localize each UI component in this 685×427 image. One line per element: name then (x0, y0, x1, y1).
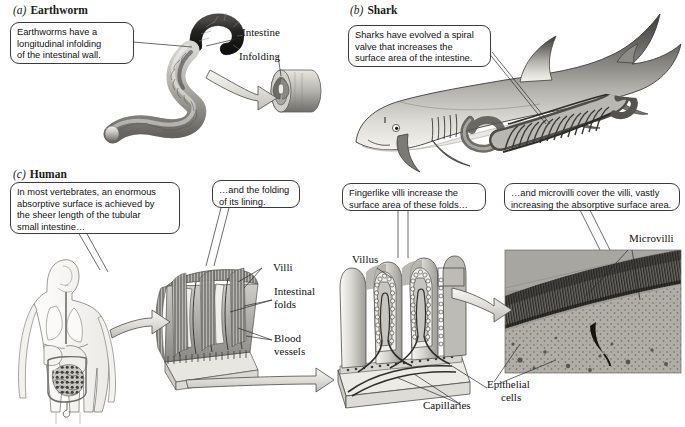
label-microvilli: Microvilli (629, 232, 674, 245)
label-blood-vessels: Blood vessels (274, 332, 305, 357)
callout-villi-line1: Fingerlike villi increase the (349, 188, 479, 200)
figure-canvas: (a)Earthworm (b)Shark (c)Human Earthworm… (0, 0, 685, 427)
callout-villi-line2: surface area of these folds… (349, 200, 479, 212)
label-capillaries: Capillaries (423, 399, 471, 412)
label-blood-vessels-line1: Blood (274, 332, 301, 344)
callout-earthworm-line3: of the intestinal wall. (17, 50, 127, 62)
panel-letter-a: (a) (13, 4, 26, 16)
callout-villi: Fingerlike villi increase the surface ar… (342, 183, 486, 211)
earthworm-cross-section (271, 70, 321, 112)
label-epithelial-cells: Epithelial cells (487, 378, 530, 403)
callout-shark-line2: valve that increases the (355, 42, 484, 54)
callout-human-intro: In most vertebrates, an enormous absorpt… (10, 182, 180, 234)
callout-microvilli-line2: increasing the absorptive surface area. (511, 200, 673, 212)
panel-heading-earthworm: (a)Earthworm (13, 4, 88, 16)
villus-block-illustration (338, 256, 470, 408)
callout-folding-line1: …and the folding (219, 185, 293, 197)
callout-shark: Sharks have evolved a spiral valve that … (348, 25, 491, 67)
callout-earthworm: Earthworms have a longitudinal infolding… (10, 22, 134, 64)
panel-name-earthworm: Earthworm (30, 4, 88, 16)
callout-shark-line3: surface area of the intestine. (355, 53, 484, 65)
callout-shark-line1: Sharks have evolved a spiral (355, 30, 484, 42)
callout-earthworm-line1: Earthworms have a (17, 27, 127, 39)
callout-microvilli: …and microvilli cover the villi, vastly … (504, 183, 680, 211)
callout-folding: …and the folding of its lining. (212, 180, 300, 208)
label-villi: Villi (273, 261, 293, 274)
callout-human-intro-line4: small intestine… (17, 222, 173, 234)
label-intestinal-folds-line2: folds (274, 298, 296, 310)
callout-folding-line2: of its lining. (219, 197, 293, 209)
panel-heading-shark: (b)Shark (350, 4, 397, 16)
panel-name-human: Human (30, 168, 67, 180)
label-epithelial-cells-line2: cells (501, 391, 521, 404)
arrow-worm-to-cross-section (206, 70, 277, 110)
callout-microvilli-line1: …and microvilli cover the villi, vastly (511, 188, 673, 200)
label-blood-vessels-line2: vessels (274, 345, 305, 357)
label-intestine: Intestine (242, 26, 280, 39)
panel-heading-human: (c)Human (13, 168, 67, 180)
panel-letter-c: (c) (13, 168, 26, 180)
human-torso-illustration (19, 260, 116, 424)
callout-human-intro-line2: absorptive surface is achieved by (17, 199, 173, 211)
callout-earthworm-line2: longitudinal infolding (17, 39, 127, 51)
microvilli-micrograph (495, 248, 685, 380)
label-infolding: Infolding (239, 50, 280, 63)
label-villus: Villus (352, 253, 378, 266)
intestinal-folds-block (156, 268, 258, 390)
panel-name-shark: Shark (367, 4, 397, 16)
panel-letter-b: (b) (350, 4, 363, 16)
label-intestinal-folds: Intestinal folds (274, 285, 315, 310)
callout-human-intro-line1: In most vertebrates, an enormous (17, 187, 173, 199)
label-intestinal-folds-line1: Intestinal (274, 285, 315, 297)
callout-human-intro-line3: the sheer length of the tubular (17, 210, 173, 222)
label-epithelial-cells-line1: Epithelial (487, 378, 530, 390)
